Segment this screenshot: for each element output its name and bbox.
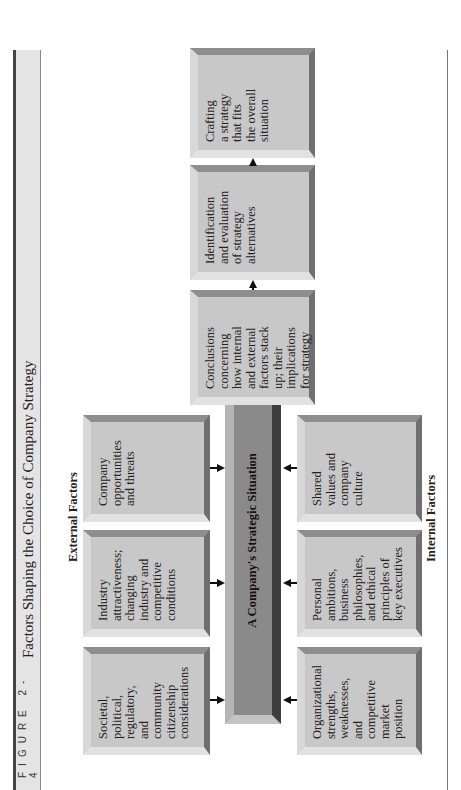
box-identification: Identification and evaluation of strateg… <box>190 165 315 280</box>
box-strategic-situation: A Company's Strategic Situation <box>225 357 281 724</box>
box-text: Organizational strengths, weaknesses, an… <box>311 662 406 739</box>
figure-header: FIGURE 2-4 Factors Shaping the Choice of… <box>13 50 41 790</box>
box-company-opportunities: Company opportunities and threats <box>83 415 210 522</box>
arrow-right-icon <box>249 280 257 288</box>
external-factors-label: External Factors <box>66 472 81 562</box>
center-text: A Company's Strategic Situation <box>246 453 260 628</box>
box-crafting-strategy: Crafting a strategy that fits the overal… <box>190 48 315 158</box>
box-text: Personal ambitions, business philosophie… <box>311 545 406 621</box>
box-text: Shared values and company culture <box>311 430 365 506</box>
box-text: Crafting a strategy that fits the overal… <box>204 63 272 142</box>
figure-title: Factors Shaping the Choice of Company St… <box>20 361 37 658</box>
arrow-line <box>290 468 297 470</box>
arrow-down-icon <box>217 696 225 704</box>
box-text: Societal, political, regulatory, and com… <box>97 662 192 739</box>
box-conclusions: Conclusions concerning how internal and … <box>190 290 315 405</box>
box-text: Identification and evaluation of strateg… <box>204 180 258 264</box>
arrow-down-icon <box>217 464 225 472</box>
box-text: Conclusions concerning how internal and … <box>204 305 312 389</box>
arrow-line <box>290 700 297 702</box>
figure-label: FIGURE 2-4 <box>17 668 39 778</box>
arrow-right-icon <box>249 158 257 166</box>
box-personal-ambitions: Personal ambitions, business philosophie… <box>297 530 422 637</box>
box-text: Company opportunities and threats <box>97 430 138 506</box>
box-organizational-strengths: Organizational strengths, weaknesses, an… <box>297 647 422 755</box>
box-industry-attractiveness: Industry attractiveness; changing indust… <box>83 530 210 637</box>
box-text: Industry attractiveness; changing indust… <box>97 545 178 621</box>
figure-canvas: FIGURE 2-4 Factors Shaping the Choice of… <box>0 0 461 790</box>
box-societal-political: Societal, political, regulatory, and com… <box>83 647 210 755</box>
bottom-rule <box>447 50 448 790</box>
arrow-down-icon <box>217 579 225 587</box>
box-shared-values: Shared values and company culture <box>297 415 422 522</box>
internal-factors-label: Internal Factors <box>424 475 439 562</box>
arrow-line <box>290 583 297 585</box>
